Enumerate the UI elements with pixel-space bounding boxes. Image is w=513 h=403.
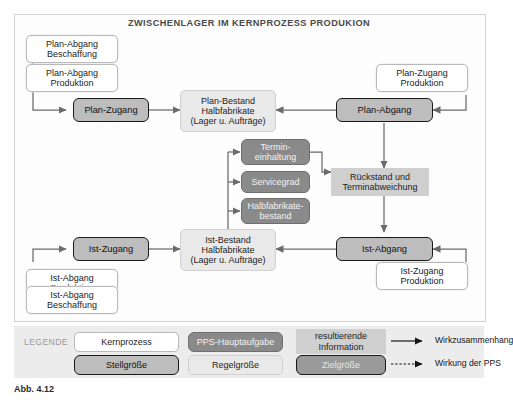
legend-wirkung-der-pps-label: Wirkung der PPS bbox=[435, 358, 501, 368]
legend-item-label: Kernprozess bbox=[101, 337, 152, 347]
legend-item-label: Regelgröße bbox=[212, 360, 259, 370]
node-ist-abgang: Ist-Abgang bbox=[336, 237, 433, 261]
diagram-title: ZWISCHENLAGER IM KERNPROZESS PRODUKION bbox=[0, 18, 498, 28]
node-plan-bestand: Plan-Bestand Halbfabrikate (Lager u. Auf… bbox=[180, 90, 276, 132]
node-label: Rückstand und Terminabweichung bbox=[340, 172, 419, 192]
legend-item-stellgroesse: Stellgröße bbox=[74, 355, 179, 375]
legend-title: LEGENDE bbox=[24, 337, 68, 347]
node-label: Termin- einhaltung bbox=[253, 142, 299, 162]
node-plan-abgang-beschaffung: Plan-Abgang Beschaffung bbox=[26, 35, 118, 63]
node-label: Ist-Bestand Halbfabrikate (Lager u. Auft… bbox=[188, 235, 267, 265]
legend-item-label: resultierende Information bbox=[315, 331, 367, 351]
node-label: Plan-Bestand Halbfabrikate (Lager u. Auf… bbox=[188, 96, 267, 126]
node-label: Ist-Zugang bbox=[87, 244, 135, 254]
legend-item-pps-hauptaufgabe: PPS-Hauptaufgabe bbox=[188, 332, 283, 352]
node-halbfabrikatebestand: Halbfabrikate- bestand bbox=[241, 198, 310, 224]
node-label: Plan-Zugang bbox=[82, 105, 139, 115]
node-label: Ist-Abgang Beschaffung bbox=[45, 290, 99, 310]
legend-wirkzusammenhang-label: Wirkzusammenhang bbox=[435, 335, 513, 345]
legend-arrow-dashed-icon bbox=[391, 358, 431, 370]
legend-item-label: Stellgröße bbox=[106, 360, 147, 370]
node-label: Plan-Zugang Produktion bbox=[394, 68, 450, 88]
node-plan-abgang-produktion: Plan-Abgang Produktion bbox=[26, 64, 118, 92]
node-ist-zugang: Ist-Zugang bbox=[73, 237, 149, 261]
node-label: Halbfabrikate- bestand bbox=[245, 201, 305, 221]
legend-item-label: Zielgröße bbox=[322, 360, 360, 370]
node-plan-zugang: Plan-Zugang bbox=[73, 98, 149, 122]
node-ist-bestand: Ist-Bestand Halbfabrikate (Lager u. Auft… bbox=[180, 229, 276, 271]
node-termineinhaltung: Termin- einhaltung bbox=[241, 139, 310, 165]
node-rueckstand-terminabweichung: Rückstand und Terminabweichung bbox=[331, 168, 429, 196]
node-label: Ist-Zugang Produktion bbox=[398, 266, 445, 286]
node-plan-abgang: Plan-Abgang bbox=[336, 98, 433, 122]
node-ist-zugang-produktion: Ist-Zugang Produktion bbox=[376, 262, 468, 290]
node-label: Plan-Abgang Beschaffung bbox=[44, 39, 100, 59]
legend-item-regelgroesse: Regelgröße bbox=[188, 355, 283, 375]
legend-arrow-solid-icon bbox=[391, 335, 431, 347]
node-label: Plan-Abgang Produktion bbox=[44, 68, 100, 88]
node-plan-zugang-produktion: Plan-Zugang Produktion bbox=[376, 64, 468, 92]
figure-caption-number: Abb. 4.12 bbox=[14, 384, 54, 394]
node-label: Servicegrad bbox=[249, 177, 301, 187]
legend-item-label: PPS-Hauptaufgabe bbox=[197, 337, 275, 347]
figure-caption: Abb. 4.12 bbox=[14, 384, 484, 394]
legend-item-zielgroesse: Zielgröße bbox=[296, 355, 386, 375]
legend-item-resultierende-information: resultierende Information bbox=[296, 329, 386, 354]
legend-panel: LEGENDE Kernprozess PPS-Hauptaufgabe res… bbox=[14, 326, 484, 378]
node-label: Plan-Abgang bbox=[356, 105, 414, 115]
node-ist-abgang-beschaffung: Ist-Abgang Beschaffung bbox=[26, 286, 118, 314]
node-label: Ist-Abgang bbox=[360, 244, 409, 254]
legend-item-kernprozess: Kernprozess bbox=[74, 332, 179, 352]
node-servicegrad: Servicegrad bbox=[241, 171, 310, 193]
